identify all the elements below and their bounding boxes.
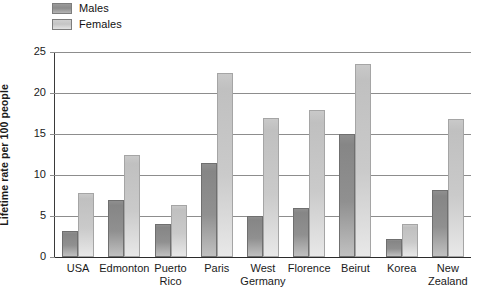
bar-females-puerto-rico xyxy=(171,205,187,257)
bar-females-edmonton xyxy=(124,155,140,257)
legend-swatch-icon-males xyxy=(52,3,72,14)
y-tick-label-0: 0 xyxy=(40,250,46,262)
legend-label-females: Females xyxy=(79,19,122,30)
bar-group-korea: Korea xyxy=(379,52,425,257)
y-tick-label-25: 25 xyxy=(34,45,46,57)
y-tick-label-15: 15 xyxy=(34,127,46,139)
bar-females-usa xyxy=(78,193,94,257)
bar-males-beirut xyxy=(339,134,355,257)
bar-males-usa xyxy=(62,231,78,257)
y-tick-mark-0 xyxy=(50,257,55,258)
bar-group-edmonton: Edmonton xyxy=(101,52,147,257)
y-tick-label-5: 5 xyxy=(40,209,46,221)
y-tick-label-10: 10 xyxy=(34,168,46,180)
bar-group-west-germany: West Germany xyxy=(240,52,286,257)
bar-females-paris xyxy=(217,73,233,258)
bar-males-paris xyxy=(201,163,217,257)
legend-item-females: Females xyxy=(52,18,122,31)
bar-males-korea xyxy=(386,239,402,257)
bar-females-west-germany xyxy=(263,118,279,257)
bar-females-beirut xyxy=(355,64,371,257)
y-axis-title: Lifetime rate per 100 people xyxy=(0,52,12,258)
bar-group-beirut: Beirut xyxy=(332,52,378,257)
bar-males-puerto-rico xyxy=(155,224,171,257)
bar-males-florence xyxy=(293,208,309,257)
bar-group-florence: Florence xyxy=(286,52,332,257)
bar-males-edmonton xyxy=(108,200,124,257)
bar-group-paris: Paris xyxy=(194,52,240,257)
bar-females-korea xyxy=(402,224,418,257)
bar-groups: USAEdmontonPuerto RicoParisWest GermanyF… xyxy=(55,52,471,257)
bar-group-usa: USA xyxy=(55,52,101,257)
legend-swatch-icon-females xyxy=(52,19,72,30)
bar-females-florence xyxy=(309,110,325,257)
chart-legend: Males Females xyxy=(52,2,122,31)
legend-label-males: Males xyxy=(79,3,109,14)
y-tick-label-20: 20 xyxy=(34,86,46,98)
bar-group-puerto-rico: Puerto Rico xyxy=(147,52,193,257)
x-tick-label-new-zealand: New Zealand xyxy=(411,262,485,287)
bar-group-new-zealand: New Zealand xyxy=(425,52,471,257)
bar-males-west-germany xyxy=(247,216,263,257)
y-axis-title-text: Lifetime rate per 100 people xyxy=(0,52,10,258)
chart-plot-area: 0510152025 USAEdmontonPuerto RicoParisWe… xyxy=(55,52,471,257)
bar-females-new-zealand xyxy=(448,119,464,257)
legend-item-males: Males xyxy=(52,2,122,15)
bar-males-new-zealand xyxy=(432,190,448,257)
